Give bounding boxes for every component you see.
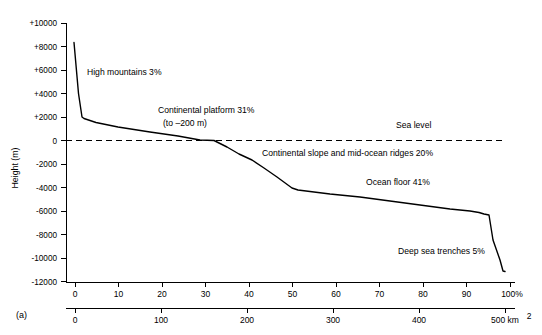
x-tick-label-20pct: 20	[157, 289, 167, 299]
x-area-tick-label-300: 300	[326, 315, 340, 325]
x-area-tick-label-0: 0	[73, 315, 78, 325]
figure-label: (a)	[16, 310, 27, 320]
annotation-continental-slope: Continental slope and mid-ocean ridges 2…	[262, 148, 433, 158]
y-tick-label-6000: +6000	[34, 66, 57, 75]
x-area-tick-label-400: 400	[412, 315, 426, 325]
annotation-continental-platform: Continental platform 31%	[158, 105, 255, 115]
chart-svg: +10000 +8000 +6000 +4000 +2000 0 -2000 -…	[0, 0, 542, 335]
y-tick-label-minus8000: -8000	[36, 231, 57, 240]
y-axis-ticks	[61, 23, 66, 282]
x-tick-label-40pct: 40	[244, 289, 254, 299]
y-tick-label-0: 0	[52, 137, 57, 146]
x-area-tick-label-200: 200	[240, 315, 254, 325]
x-tick-label-30pct: 30	[201, 289, 211, 299]
annotation-deep-sea-trenches: Deep sea trenches 5%	[398, 246, 485, 256]
x-tick-label-0pct: 0	[73, 289, 78, 299]
x-area-tick-label-100: 100	[154, 315, 168, 325]
y-tick-label-2000: +2000	[34, 113, 57, 122]
y-tick-label-minus6000: -6000	[36, 207, 57, 216]
x-tick-label-70pct: 70	[375, 289, 385, 299]
x-axis-ticks-area	[75, 308, 505, 313]
x-area-tick-label-500km: 500 km	[491, 315, 519, 325]
annotation-high-mountains: High mountains 3%	[87, 67, 162, 77]
hypsographic-curve-chart: +10000 +8000 +6000 +4000 +2000 0 -2000 -…	[0, 0, 542, 335]
y-tick-label-minus4000: -4000	[36, 184, 57, 193]
x-tick-label-50pct: 50	[288, 289, 298, 299]
x-tick-label-10pct: 10	[114, 289, 124, 299]
x-axis-ticks-percent	[75, 282, 510, 287]
y-tick-label-minus12000: -12000	[32, 278, 58, 287]
x-tick-label-90pct: 90	[462, 289, 472, 299]
x-tick-label-100pct: 100%	[501, 289, 523, 299]
x-tick-label-60pct: 60	[331, 289, 341, 299]
x-tick-label-80pct: 80	[418, 289, 428, 299]
y-tick-label-minus10000: -10000	[32, 254, 58, 263]
y-tick-label-4000: +4000	[34, 90, 57, 99]
y-axis-title: Height (m)	[10, 147, 20, 188]
y-tick-label-minus2000: -2000	[36, 160, 57, 169]
annotation-continental-platform-sub: (to –200 m)	[163, 118, 207, 128]
y-tick-label-8000: +8000	[34, 43, 57, 52]
annotation-ocean-floor: Ocean floor 41%	[366, 177, 430, 187]
y-tick-label-10000: +10000	[29, 19, 57, 28]
x-area-unit-superscript: 2	[527, 311, 532, 321]
annotation-sea-level: Sea level	[396, 120, 431, 130]
